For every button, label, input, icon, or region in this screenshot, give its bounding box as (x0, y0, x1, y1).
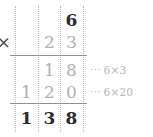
partial-2-tens-digit: 2 (38, 80, 61, 104)
partial-2-hundreds-digit: 1 (15, 80, 38, 104)
multiplication-operator-icon: × (0, 30, 15, 54)
partial-product-1-annotation: ⋯6×3 (90, 60, 153, 80)
multiplier-units-digit: 3 (60, 30, 83, 54)
multiplicand-units-digit: 6 (60, 8, 83, 32)
partial-1-tens-digit: 1 (38, 58, 61, 82)
answer-tens-digit: 3 (38, 106, 61, 130)
partial-product-2-annotation: ⋯6×20 (90, 82, 153, 102)
answer-hundreds-digit: 1 (15, 106, 38, 130)
partial-2-units-digit: 0 (60, 80, 83, 104)
partial-1-units-digit: 8 (60, 58, 83, 82)
multiplicand-row: 6 (0, 8, 153, 32)
ellipsis-icon: ⋯ (90, 64, 102, 76)
multiplier-tens-digit: 2 (38, 30, 61, 54)
partial-1-annotation-text: 6×3 (104, 64, 127, 76)
upper-horizontal-rule (10, 55, 87, 56)
partial-2-annotation-text: 6×20 (104, 86, 134, 98)
lower-horizontal-rule (10, 103, 87, 104)
ellipsis-icon: ⋯ (90, 86, 102, 98)
multiplier-row: × 2 3 (0, 30, 153, 54)
answer-units-digit: 8 (60, 106, 83, 130)
answer-row: 1 3 8 (0, 106, 153, 130)
long-multiplication-worksheet: 6 × 2 3 1 8 ⋯6×3 1 2 0 ⋯6×20 1 3 8 (0, 0, 153, 137)
